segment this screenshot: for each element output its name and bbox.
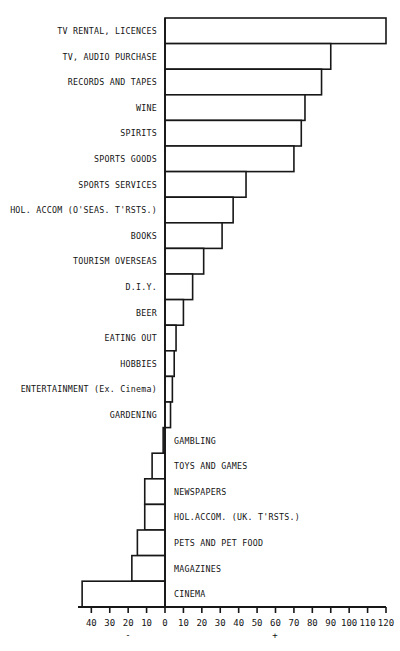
tick-label: 0 — [162, 618, 167, 628]
category-label: HOL.ACCOM. (UK. T'RSTS.) — [174, 512, 300, 522]
category-label: MAGAZINES — [174, 564, 221, 574]
tick-label: 50 — [252, 618, 263, 628]
category-label: WINE — [136, 103, 157, 113]
category-label: CINEMA — [174, 589, 205, 599]
bar — [132, 556, 165, 582]
tick-label: 20 — [123, 618, 134, 628]
tick-label: 120 — [378, 618, 394, 628]
tick-label: 10 — [141, 618, 152, 628]
tick-label: 60 — [270, 618, 281, 628]
category-label: NEWSPAPERS — [174, 487, 226, 497]
bar — [165, 325, 176, 351]
bar — [165, 197, 233, 223]
tick-label: 40 — [86, 618, 97, 628]
bar — [165, 120, 301, 146]
bar — [165, 376, 172, 402]
bar — [145, 504, 165, 530]
category-label: TOURISM OVERSEAS — [73, 256, 157, 266]
horizontal-bar-chart: TV RENTAL, LICENCESTV, AUDIO PURCHASEREC… — [0, 0, 400, 651]
bar — [165, 95, 305, 121]
tick-label: 40 — [233, 618, 244, 628]
bar — [165, 300, 183, 326]
tick-label: 100 — [341, 618, 357, 628]
bar — [165, 223, 222, 249]
category-label: SPIRITS — [120, 128, 157, 138]
tick-label: 110 — [359, 618, 375, 628]
category-label: GARDENING — [110, 410, 157, 420]
category-label: ENTERTAINMENT (Ex. Cinema) — [21, 384, 157, 394]
tick-label: 30 — [104, 618, 115, 628]
category-label: GAMBLING — [174, 436, 216, 446]
category-label: HOBBIES — [120, 359, 157, 369]
axis-ticks — [91, 607, 386, 613]
bar — [145, 479, 165, 505]
positive-sign-label: + — [272, 630, 278, 640]
bar — [165, 18, 386, 44]
negative-sign-label: - — [125, 630, 130, 640]
bar — [165, 172, 246, 198]
bar — [165, 69, 322, 95]
bar — [165, 44, 331, 70]
bar — [165, 274, 193, 300]
category-label: TV, AUDIO PURCHASE — [63, 52, 157, 62]
category-label: D.I.Y. — [126, 282, 157, 292]
axis-tick-labels: 403020100102030405060708090100110120 — [86, 618, 394, 628]
bar — [165, 146, 294, 172]
category-label: SPORTS SERVICES — [78, 180, 157, 190]
tick-label: 80 — [307, 618, 318, 628]
tick-label: 30 — [215, 618, 226, 628]
chart-container: TV RENTAL, LICENCESTV, AUDIO PURCHASEREC… — [0, 0, 400, 651]
category-label: SPORTS GOODS — [94, 154, 157, 164]
category-label: TOYS AND GAMES — [174, 461, 247, 471]
category-label: EATING OUT — [105, 333, 157, 343]
bar — [82, 581, 165, 607]
bar — [152, 453, 165, 479]
tick-label: 20 — [196, 618, 207, 628]
category-label: RECORDS AND TAPES — [68, 77, 157, 87]
bar — [165, 351, 174, 377]
tick-label: 10 — [178, 618, 189, 628]
category-label: BEER — [136, 308, 157, 318]
bar — [137, 530, 165, 556]
category-label: HOL. ACCOM (O'SEAS. T'RSTS.) — [10, 205, 157, 215]
category-label: BOOKS — [131, 231, 157, 241]
category-label: PETS AND PET FOOD — [174, 538, 263, 548]
category-label: TV RENTAL, LICENCES — [57, 26, 157, 36]
tick-label: 70 — [288, 618, 299, 628]
tick-label: 90 — [325, 618, 336, 628]
bar — [165, 248, 204, 274]
